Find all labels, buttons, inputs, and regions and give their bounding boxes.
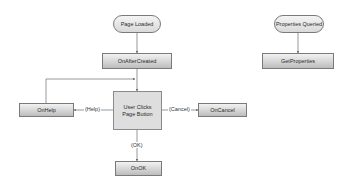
node-on-cancel-label: OnCancel — [210, 107, 234, 114]
node-get-properties-label: GetProperties — [281, 58, 315, 65]
node-user-clicks-page-button: User Clicks Page Button — [113, 91, 162, 130]
edge-label-help: (Help) — [84, 106, 101, 112]
node-properties-queried: Properties Queried — [274, 15, 324, 33]
node-on-after-created-label: OnAfterCreated — [118, 58, 157, 65]
node-on-after-created: OnAfterCreated — [102, 53, 172, 69]
node-user-clicks-label: User Clicks Page Button — [118, 104, 157, 118]
node-on-help: OnHelp — [19, 103, 74, 117]
edge-label-ok: (OK) — [130, 142, 144, 148]
node-page-loaded-label: Page Loaded — [121, 21, 154, 28]
node-properties-queried-label: Properties Queried — [276, 21, 322, 28]
node-on-cancel: OnCancel — [198, 103, 247, 117]
node-on-help-label: OnHelp — [37, 107, 56, 114]
flowchart-canvas: Page Loaded OnAfterCreated User Clicks P… — [0, 0, 349, 185]
node-get-properties: GetProperties — [262, 53, 334, 69]
node-on-ok-label: OnOK — [131, 165, 146, 172]
node-on-ok: OnOK — [115, 161, 162, 176]
edge-label-cancel: (Cancel) — [168, 106, 191, 112]
node-page-loaded: Page Loaded — [113, 15, 161, 33]
